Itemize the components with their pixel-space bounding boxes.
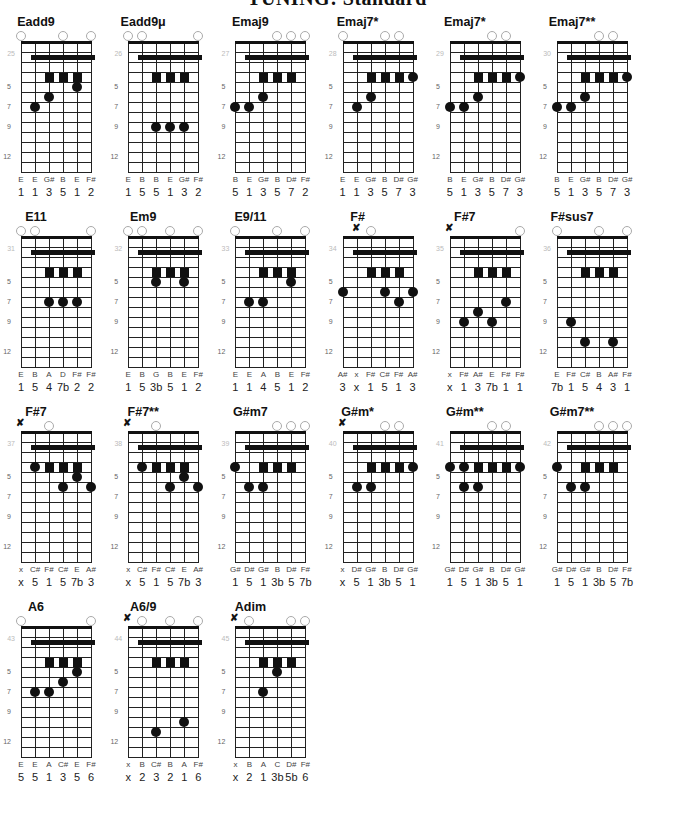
interval-label: 2 [83,186,99,198]
note-label: B [135,760,149,769]
finger-dot [580,482,590,492]
note-label: F# [298,175,312,184]
fret-number-label: 9 [98,513,118,520]
chord-chart: A64357912EEAC#EF#551356 [1,600,108,795]
nut [235,236,306,239]
fretboard: BEG#BD#F#513572 [235,42,305,172]
root-square-marker [381,268,390,277]
fret-line [235,687,306,688]
capo-bar [245,640,309,645]
note-label: B [485,175,499,184]
fret-line [343,162,414,163]
fret-line [235,552,306,553]
fret-line [235,522,306,523]
fret-line [557,562,628,563]
note-label: B [592,175,606,184]
fret-line [128,317,199,318]
finger-dot [366,482,376,492]
finger-dot [352,482,362,492]
fret-line [557,247,628,248]
interval-label: 1 [619,381,635,393]
fret-line [557,82,628,83]
fret-line [343,247,414,248]
fret-number-label: 9 [98,708,118,715]
muted-string-x-icon: ✘ [123,418,131,428]
fret-line [557,112,628,113]
fret-line [128,92,199,93]
note-label: x [350,370,364,379]
fret-line [343,327,414,328]
fret-line [128,452,199,453]
chord-chart: F#7**3857912✘xC#F#C#EA#x5157b3 [108,405,215,600]
fret-line [21,647,92,648]
fret-line [343,472,414,473]
muted-string-x-icon: ✘ [352,223,360,233]
fret-line [343,347,414,348]
fret-line [343,522,414,523]
finger-dot [258,92,268,102]
root-square-marker [474,268,483,277]
fret-number-label: 5 [527,83,547,90]
finger-dot [566,482,576,492]
note-label: B [378,565,392,574]
fretboard: G#D#G#BD#F#1513b57b [557,432,627,562]
fret-line [557,552,628,553]
fret-line [235,257,306,258]
fret-line [21,542,92,543]
note-label: G# [443,565,457,574]
fret-number-label: 7 [98,688,118,695]
nut [21,626,92,629]
note-label: E [28,175,42,184]
finger-dot [459,102,469,112]
fret-number-label: 9 [0,513,11,520]
fret-line [450,307,521,308]
fret-line [128,687,199,688]
interval-label: 2 [83,381,99,393]
open-string-circle-icon [272,226,282,236]
root-square-marker [180,73,189,82]
fret-number-label: 5 [527,473,547,480]
root-square-marker [609,73,618,82]
open-string-circle-icon [44,421,54,431]
finger-dot [151,277,161,287]
fret-line [21,82,92,83]
finger-dot [179,277,189,287]
finger-dot [30,687,40,697]
root-square-marker [381,73,390,82]
capo-bar [245,445,309,450]
chord-name: F#7** [88,405,198,419]
nut [343,236,414,239]
nut [128,41,199,44]
finger-dot [445,462,455,472]
note-label: C# [135,565,149,574]
fret-line [128,667,199,668]
note-label: A# [606,370,620,379]
finger-dot [608,337,618,347]
fret-line [235,287,306,288]
note-label: E [485,370,499,379]
finger-dot [137,462,147,472]
fret-line [450,82,521,83]
interval-label: 3 [190,576,206,588]
note-label: G# [513,565,527,574]
fret-line [128,697,199,698]
open-string-circle-icon [123,31,133,41]
fret-number-label: 7 [313,493,333,500]
fret-line [128,112,199,113]
fret-line [128,492,199,493]
interval-label: 6 [83,771,99,783]
chord-chart: A6/94457912✘xBC#BAF#x23216 [108,600,215,795]
fret-number-label: 7 [98,493,118,500]
finger-dot [515,462,525,472]
finger-dot [501,297,511,307]
finger-dot [72,82,82,92]
fret-number-label: 5 [205,83,225,90]
fret-number-label: 9 [98,318,118,325]
finger-dot [165,122,175,132]
fret-line [343,132,414,133]
fret-line [343,337,414,338]
open-string-circle-icon [394,421,404,431]
fret-number-label: 7 [0,493,11,500]
fret-line [450,297,521,298]
fret-line [557,307,628,308]
